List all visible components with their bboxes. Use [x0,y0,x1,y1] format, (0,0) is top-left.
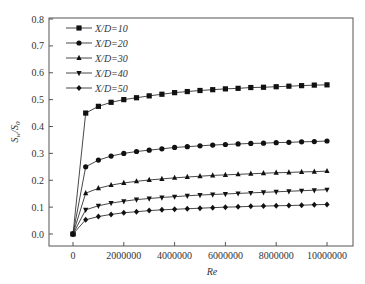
diamond-marker-icon [210,205,215,211]
y-tick-label: 0.2 [32,175,45,186]
triangle-up-marker-icon [286,169,291,174]
triangle-down-marker-icon [210,192,215,197]
square-marker-icon [324,82,329,87]
x-tick-label: 8000000 [259,250,294,261]
x-tick-label: 2000000 [106,250,141,261]
circle-marker-icon [197,143,202,148]
series-x-d-20 [70,138,329,236]
square-marker-icon [96,104,101,109]
triangle-down-marker-icon [223,192,228,197]
square-marker-icon [248,85,253,90]
diamond-marker-icon [147,208,152,214]
series-layer [70,82,329,237]
legend-label: X/D=10 [94,23,128,34]
diamond-marker-icon [76,85,81,91]
y-axis-title: Sw/S0 [9,121,22,142]
circle-marker-icon [324,138,329,143]
circle-marker-icon [83,164,88,169]
triangle-down-marker-icon [248,191,253,196]
legend-item: X/D=40 [66,68,128,79]
circle-marker-icon [312,139,317,144]
square-marker-icon [286,84,291,89]
triangle-up-marker-icon [236,171,241,176]
y-tick-label: 0.3 [32,148,45,159]
circle-marker-icon [96,157,101,162]
triangle-up-marker-icon [197,173,202,178]
y-tick-label: 0.6 [32,67,45,78]
diamond-marker-icon [248,203,253,209]
diamond-marker-icon [197,205,202,211]
diamond-marker-icon [261,203,266,209]
triangle-up-marker-icon [299,169,304,174]
triangle-up-marker-icon [312,168,317,173]
legend-item: X/D=30 [66,53,128,64]
square-marker-icon [76,25,81,30]
legend-label: X/D=40 [94,68,128,79]
triangle-down-marker-icon [172,195,177,200]
triangle-down-marker-icon [236,191,241,196]
triangle-up-marker-icon [261,170,266,175]
circle-marker-icon [210,142,215,147]
square-marker-icon [274,84,279,89]
triangle-up-marker-icon [76,55,81,60]
x-tick-label: 0 [71,250,76,261]
diamond-marker-icon [185,206,190,212]
diamond-marker-icon [134,209,139,215]
diamond-marker-icon [286,203,291,209]
triangle-down-marker-icon [274,190,279,195]
circle-marker-icon [236,141,241,146]
triangle-down-marker-icon [299,189,304,194]
square-marker-icon [83,110,88,115]
diamond-marker-icon [324,201,329,207]
square-marker-icon [159,92,164,97]
y-tick-label: 0.7 [32,40,45,51]
square-marker-icon [147,93,152,98]
triangle-up-marker-icon [274,170,279,175]
legend-item: X/D=50 [66,83,128,94]
circle-marker-icon [159,146,164,151]
circle-marker-icon [121,151,126,156]
diamond-marker-icon [96,214,101,220]
square-marker-icon [197,88,202,93]
triangle-down-marker-icon [76,71,81,76]
triangle-up-marker-icon [324,168,329,173]
legend-label: X/D=30 [94,53,128,64]
x-tick-label: 10000000 [307,250,347,261]
y-tick-label: 0.0 [32,229,45,240]
diamond-marker-icon [236,204,241,210]
x-tick-label: 4000000 [157,250,192,261]
square-marker-icon [312,83,317,88]
legend-item: X/D=10 [66,23,128,34]
circle-marker-icon [286,140,291,145]
triangle-down-marker-icon [286,189,291,194]
circle-marker-icon [76,40,81,45]
triangle-up-marker-icon [210,172,215,177]
square-marker-icon [185,89,190,94]
square-marker-icon [236,86,241,91]
circle-marker-icon [299,139,304,144]
y-tick-label: 0.5 [32,94,45,105]
y-tick-label: 0.8 [32,14,45,25]
circle-marker-icon [134,149,139,154]
circle-marker-icon [223,142,228,147]
square-marker-icon [299,83,304,88]
series-x-d-50 [70,201,329,237]
triangle-down-marker-icon [185,194,190,199]
triangle-down-marker-icon [312,188,317,193]
triangle-down-marker-icon [261,190,266,195]
legend: X/D=10X/D=20X/D=30X/D=40X/D=50 [66,23,128,94]
circle-marker-icon [172,145,177,150]
x-axis: 0200000040000006000000800000010000000 [71,242,348,261]
diamond-marker-icon [312,202,317,208]
x-tick-label: 6000000 [208,250,243,261]
diamond-marker-icon [274,203,279,209]
square-marker-icon [121,97,126,102]
triangle-up-marker-icon [223,172,228,177]
triangle-down-marker-icon [83,208,88,213]
triangle-down-marker-icon [324,188,329,193]
line-chart: 0.00.10.20.30.40.50.60.70.8 020000004000… [0,0,365,284]
series-x-d-10 [70,82,329,236]
legend-label: X/D=50 [94,83,128,94]
triangle-up-marker-icon [248,171,253,176]
y-axis: 0.00.10.20.30.40.50.60.70.8 [32,14,54,240]
